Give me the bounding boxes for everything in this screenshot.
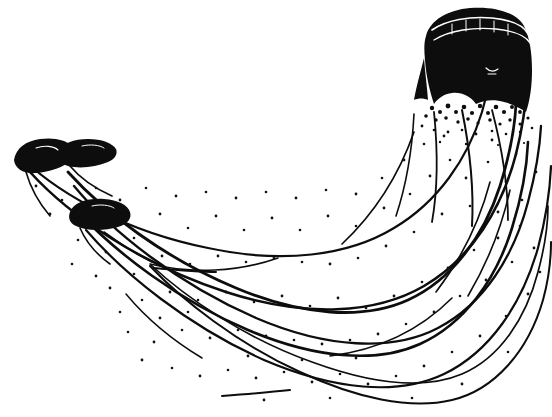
banana-drawing-svg: [0, 0, 552, 417]
blackened-tip-icon: [69, 199, 130, 230]
banana-illustration-canvas: [0, 0, 552, 417]
